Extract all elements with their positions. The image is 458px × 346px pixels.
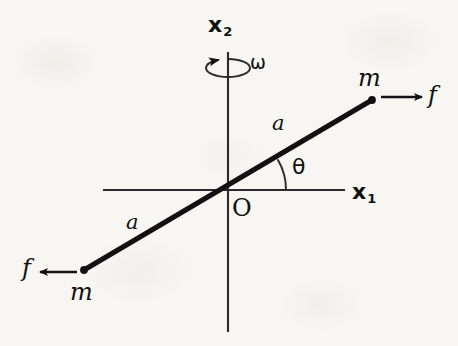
theta-arc [278, 160, 286, 190]
omega-label: ω [250, 53, 266, 72]
x1-axis-label-base: x [352, 179, 366, 204]
mass-label-lower: m [70, 280, 93, 304]
x2-axis-label-base: x [208, 12, 222, 37]
physics-diagram-figure: x2 x1 ω θ O a a m m f f [0, 0, 458, 346]
mass-dot-upper [368, 96, 376, 104]
mass-dot-lower [80, 266, 88, 274]
theta-label: θ [292, 156, 305, 178]
mass-label-upper: m [358, 66, 381, 90]
x1-axis-label: x1 [352, 181, 375, 203]
x2-axis-label-subscript: 2 [223, 24, 232, 39]
arm-length-label-lower: a [126, 212, 139, 233]
force-label-upper: f [428, 83, 437, 107]
x2-axis-label: x2 [208, 14, 231, 36]
arm-length-label-upper: a [272, 113, 285, 134]
force-label-lower: f [22, 256, 31, 280]
diagram-canvas [0, 0, 458, 346]
x1-axis-label-subscript: 1 [367, 191, 376, 206]
origin-label: O [232, 196, 252, 220]
